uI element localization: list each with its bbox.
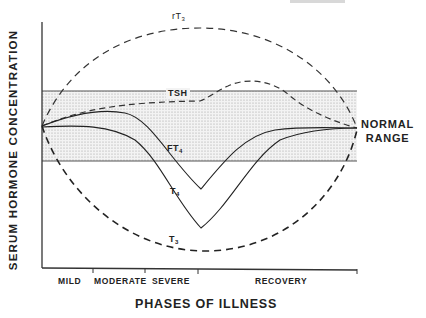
- phase-label-mild: MILD: [58, 276, 81, 286]
- phase-label-recovery: RECOVERY: [255, 276, 307, 286]
- label-rt3-text: rT: [172, 11, 182, 21]
- normal-range-label-line2: RANGE: [361, 131, 414, 145]
- chart-plot: [0, 0, 426, 318]
- x-axis: [42, 268, 357, 270]
- label-t4-sub: 4: [176, 191, 180, 197]
- normal-range-label-line1: NORMAL: [361, 117, 414, 131]
- label-ft4-sub: 4: [179, 148, 183, 154]
- label-rt3-sub: 3: [182, 16, 186, 22]
- label-tsh: TSH: [166, 88, 190, 98]
- label-ft4: FT4: [167, 143, 183, 154]
- phase-label-severe: SEVERE: [152, 276, 190, 286]
- x-axis-label: PHASES OF ILLNESS: [135, 297, 277, 311]
- label-rt3: rT3: [172, 11, 185, 22]
- label-t4: T4: [170, 186, 180, 197]
- label-t3-sub: 3: [175, 239, 179, 245]
- y-axis-label: SERUM HORMONE CONCENTRATION: [7, 30, 19, 270]
- phase-label-moderate: MODERATE: [94, 276, 147, 286]
- label-t3: T3: [169, 234, 179, 245]
- normal-range-label: NORMAL RANGE: [361, 117, 414, 145]
- label-ft4-text: FT: [167, 143, 179, 153]
